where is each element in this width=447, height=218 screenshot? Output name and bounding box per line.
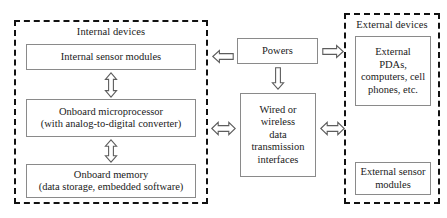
node-onboard-microprocessor-line-1: Onboard microprocessor: [30, 106, 192, 119]
group-external-devices-label: External devices: [344, 19, 440, 31]
arrow-powers-to-transmission: [271, 67, 285, 90]
node-external-sensor-modules-line-2: modules: [359, 179, 427, 192]
node-powers: Powers: [237, 38, 318, 64]
node-transmission-interfaces-line-1: Wired or: [244, 104, 312, 117]
node-transmission-interfaces: Wired or wireless data transmission inte…: [240, 93, 316, 177]
node-internal-sensor-modules-line-1: Internal sensor modules: [30, 51, 192, 64]
arrow-powers-to-internal: [212, 49, 234, 64]
node-powers-line-1: Powers: [241, 45, 314, 58]
arrow-powers-to-external: [322, 44, 344, 59]
node-external-pdas-line-2: PDAs,: [359, 59, 427, 72]
node-onboard-microprocessor-line-2: (with analog-to-digital converter): [30, 118, 192, 131]
group-internal-devices-label: Internal devices: [14, 26, 208, 38]
node-onboard-microprocessor: Onboard microprocessor (with analog-to-d…: [26, 99, 196, 137]
node-onboard-memory: Onboard memory (data storage, embedded s…: [26, 164, 196, 198]
node-external-pdas-line-1: External: [359, 46, 427, 59]
node-transmission-interfaces-line-2: wireless: [244, 116, 312, 129]
node-external-pdas-line-4: phones, etc.: [359, 84, 427, 97]
node-internal-sensor-modules: Internal sensor modules: [26, 44, 196, 70]
node-transmission-interfaces-line-3: data: [244, 129, 312, 142]
node-onboard-memory-line-1: Onboard memory: [30, 169, 192, 182]
arrow-internal-to-transmission: [211, 121, 236, 136]
node-external-sensor-modules-line-1: External sensor: [359, 166, 427, 179]
node-transmission-interfaces-line-5: interfaces: [244, 154, 312, 167]
node-external-pdas-line-3: computers, cell: [359, 71, 427, 84]
arrow-sensor-to-microprocessor: [104, 72, 118, 98]
node-onboard-memory-line-2: (data storage, embedded software): [30, 181, 192, 194]
arrow-transmission-to-external: [320, 121, 345, 136]
node-external-sensor-modules: External sensor modules: [355, 162, 431, 195]
node-transmission-interfaces-line-4: transmission: [244, 141, 312, 154]
diagram-canvas: Internal devices Internal sensor modules…: [0, 0, 447, 218]
arrow-microprocessor-to-memory: [104, 139, 118, 163]
node-external-pdas: External PDAs, computers, cell phones, e…: [355, 36, 431, 106]
